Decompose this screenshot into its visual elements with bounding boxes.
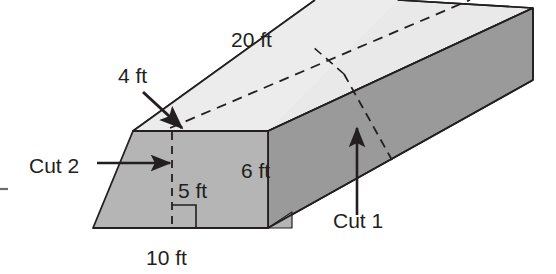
prism-solid <box>93 0 533 228</box>
base-width-label: 10 ft <box>146 246 187 269</box>
cut-two-label: Cut 2 <box>29 154 79 177</box>
cut-one-label: Cut 1 <box>333 209 383 232</box>
geometry-figure: 20 ft 4 ft 6 ft 5 ft 10 ft Cut 1 Cut 2 <box>0 0 556 274</box>
slant-height-label: 6 ft <box>241 159 270 182</box>
length-label: 20 ft <box>231 28 272 51</box>
height-label: 5 ft <box>178 179 207 202</box>
top-width-label: 4 ft <box>118 64 147 87</box>
prism-diagram-svg: 20 ft 4 ft 6 ft 5 ft 10 ft Cut 1 Cut 2 <box>0 0 556 274</box>
